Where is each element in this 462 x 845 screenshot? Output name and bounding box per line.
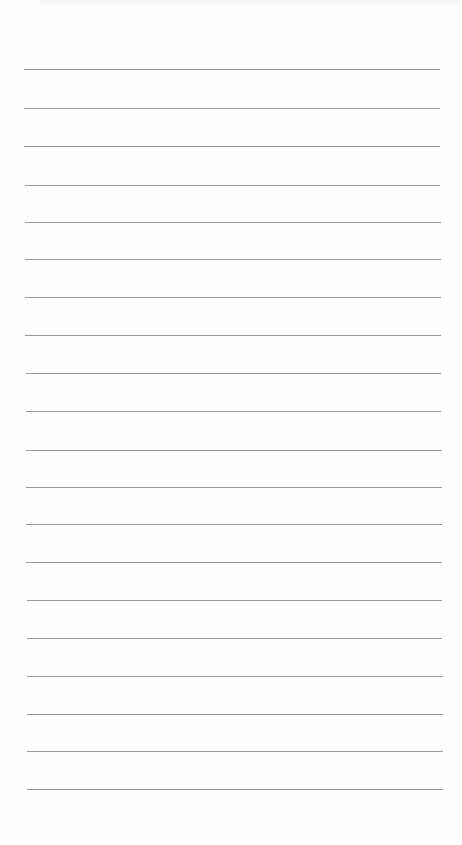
ruled-line — [27, 714, 443, 715]
ruled-line — [27, 638, 442, 639]
ruled-line — [26, 450, 442, 451]
ruled-line — [24, 108, 440, 109]
ruled-line — [26, 411, 441, 412]
ruled-line — [26, 487, 442, 488]
ruled-line — [25, 259, 441, 260]
ruled-line — [25, 222, 441, 223]
ruled-line — [27, 751, 443, 752]
top-edge-bleed-through — [40, 0, 460, 6]
ruled-line — [24, 146, 440, 147]
ruled-line — [25, 185, 440, 186]
ruled-line — [27, 676, 443, 677]
ruled-line — [24, 69, 440, 70]
ruled-line — [26, 373, 441, 374]
lined-paper-sheet — [0, 0, 462, 845]
ruled-line — [27, 789, 443, 790]
ruled-line — [25, 335, 441, 336]
ruled-line — [27, 600, 442, 601]
ruled-line — [26, 562, 442, 563]
ruled-line — [26, 524, 442, 525]
ruled-line — [25, 297, 441, 298]
